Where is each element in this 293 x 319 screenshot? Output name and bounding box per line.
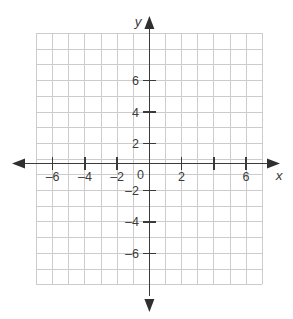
x-axis-tick-labels: –6 –4 –2 2 6 xyxy=(46,170,250,184)
y-axis-top-arrowhead xyxy=(144,16,154,29)
x-axis-right-arrowhead xyxy=(267,159,280,169)
y-tick-label-neg4: –4 xyxy=(125,215,139,229)
x-axis-name: x xyxy=(275,168,284,183)
origin-label: 0 xyxy=(137,168,144,182)
x-tick-label-neg2: –2 xyxy=(110,170,124,184)
y-tick-label-neg2: –2 xyxy=(125,184,139,198)
coordinate-plane: –6 –4 –2 2 6 0 6 4 2 –2 –4 –6 y x xyxy=(0,0,293,319)
y-axis-name: y xyxy=(134,14,143,29)
x-axis-left-arrowhead xyxy=(12,159,25,169)
x-tick-label-pos2: 2 xyxy=(178,170,185,184)
y-tick-label-pos4: 4 xyxy=(132,106,139,120)
x-tick-label-pos6: 6 xyxy=(243,170,250,184)
y-tick-label-pos2: 2 xyxy=(132,137,139,151)
y-tick-label-pos6: 6 xyxy=(132,74,139,88)
y-tick-label-neg6: –6 xyxy=(125,247,139,261)
x-tick-label-neg6: –6 xyxy=(46,170,60,184)
x-tick-label-neg4: –4 xyxy=(78,170,92,184)
coordinate-grid-svg: –6 –4 –2 2 6 0 6 4 2 –2 –4 –6 y x xyxy=(0,0,293,319)
y-axis-bottom-arrowhead xyxy=(144,299,154,312)
